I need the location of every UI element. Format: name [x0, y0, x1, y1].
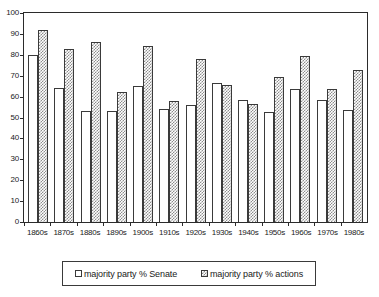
- bar-actions: [143, 46, 153, 222]
- chart-legend: majority party % Senatemajority party % …: [62, 261, 316, 286]
- x-axis-tick-slot: [103, 223, 129, 227]
- x-axis-tick-mark: [156, 223, 157, 226]
- plot-area: [23, 12, 368, 223]
- x-axis-tick-slot: [262, 223, 288, 227]
- x-axis-tick-label: 1910s: [156, 228, 182, 242]
- x-axis-tick-marks: [23, 223, 368, 227]
- bar-actions: [327, 89, 337, 222]
- x-axis-tick-slot: [182, 223, 208, 227]
- bar-group: [182, 13, 208, 222]
- bar-senate: [159, 109, 169, 222]
- x-axis-tick-label: 1860s: [24, 228, 50, 242]
- bar-senate: [212, 83, 222, 222]
- y-axis-tick-label: 30: [11, 155, 20, 163]
- bar-senate: [264, 112, 274, 222]
- x-axis-tick-mark: [288, 223, 289, 226]
- bar-group: [287, 13, 313, 222]
- bar-actions: [117, 92, 127, 222]
- x-axis-tick-label: 1880s: [77, 228, 103, 242]
- x-axis-tick-slot: [341, 223, 367, 227]
- y-axis-tick-label: 100: [6, 9, 19, 17]
- bar-senate: [107, 111, 117, 222]
- x-axis-tick-slot: [288, 223, 314, 227]
- bar-group: [314, 13, 340, 222]
- bar-senate: [290, 89, 300, 222]
- legend-label: majority party % Senate: [84, 269, 177, 279]
- x-axis-tick-mark: [341, 223, 342, 226]
- bar-chart: 0102030405060708090100 1860s1870s1880s18…: [0, 0, 379, 297]
- y-axis-tick-label: 10: [11, 197, 20, 205]
- bar-group: [261, 13, 287, 222]
- y-axis-tick-label: 60: [11, 93, 20, 101]
- x-axis-tick-slot: [24, 223, 50, 227]
- x-axis-tick-slot: [130, 223, 156, 227]
- legend-label: majority party % actions: [210, 269, 303, 279]
- bar-group: [104, 13, 130, 222]
- bar-actions: [169, 101, 179, 222]
- x-axis-tick-slot: [156, 223, 182, 227]
- x-axis-tick-mark: [209, 223, 210, 226]
- x-axis-tick-mark: [262, 223, 263, 226]
- bar-group: [51, 13, 77, 222]
- white-square-swatch: [75, 270, 82, 277]
- bar-senate: [186, 105, 196, 222]
- x-axis-tick-label: 1980s: [341, 228, 367, 242]
- y-axis-tick-label: 0: [15, 218, 19, 226]
- x-axis-tick-slot: [314, 223, 340, 227]
- bar-actions: [38, 30, 48, 222]
- bar-group: [156, 13, 182, 222]
- bar-group: [209, 13, 235, 222]
- legend-entry[interactable]: majority party % actions: [201, 269, 303, 279]
- legend-entry[interactable]: majority party % Senate: [75, 269, 177, 279]
- x-axis-tick-label: 1950s: [262, 228, 288, 242]
- bar-group: [235, 13, 261, 222]
- x-axis-tick-slot: [77, 223, 103, 227]
- x-axis-tick-label: 1870s: [50, 228, 76, 242]
- bar-group: [340, 13, 366, 222]
- bar-group: [130, 13, 156, 222]
- x-axis-tick-mark: [77, 223, 78, 226]
- bar-senate: [133, 86, 143, 222]
- x-axis-tick-mark: [314, 223, 315, 226]
- bar-group: [25, 13, 51, 222]
- bar-actions: [91, 42, 101, 222]
- bar-senate: [54, 88, 64, 222]
- x-axis-tick-label: 1900s: [130, 228, 156, 242]
- bar-actions: [222, 85, 232, 222]
- bar-senate: [343, 110, 353, 222]
- x-axis-tick-mark: [103, 223, 104, 226]
- x-axis-tick-mark: [182, 223, 183, 226]
- bar-group: [77, 13, 103, 222]
- bar-senate: [81, 111, 91, 222]
- x-axis-tick-label: 1970s: [314, 228, 340, 242]
- bar-actions: [196, 59, 206, 222]
- y-axis-tick-label: 80: [11, 51, 20, 59]
- y-axis-tick-label: 20: [11, 176, 20, 184]
- y-axis-tick-label: 70: [11, 72, 20, 80]
- x-axis-tick-labels: 1860s1870s1880s1890s1900s1910s1920s1930s…: [23, 228, 368, 242]
- bar-senate: [238, 100, 248, 222]
- bars-layer: [24, 13, 367, 222]
- x-axis-tick-mark: [50, 223, 51, 226]
- x-axis-tick-label: 1930s: [209, 228, 235, 242]
- x-axis-tick-mark: [24, 223, 25, 226]
- bar-actions: [300, 56, 310, 222]
- y-axis-tick-label: 50: [11, 114, 20, 122]
- x-axis-tick-label: 1940s: [235, 228, 261, 242]
- x-axis-tick-slot: [235, 223, 261, 227]
- bar-senate: [28, 55, 38, 222]
- y-axis-tick-label: 40: [11, 134, 20, 142]
- bar-actions: [353, 70, 363, 222]
- bar-senate: [317, 100, 327, 222]
- x-axis-tick-label: 1890s: [103, 228, 129, 242]
- bar-actions: [248, 104, 258, 222]
- x-axis-tick-label: 1920s: [182, 228, 208, 242]
- bar-actions: [64, 49, 74, 222]
- y-axis-tick-label: 90: [11, 30, 20, 38]
- y-axis-tick-labels: 0102030405060708090100: [0, 12, 19, 223]
- x-axis-tick-label: 1960s: [288, 228, 314, 242]
- hatched-square-swatch: [201, 270, 208, 277]
- x-axis-tick-slot: [50, 223, 76, 227]
- x-axis-tick-mark: [235, 223, 236, 226]
- x-axis-tick-mark: [130, 223, 131, 226]
